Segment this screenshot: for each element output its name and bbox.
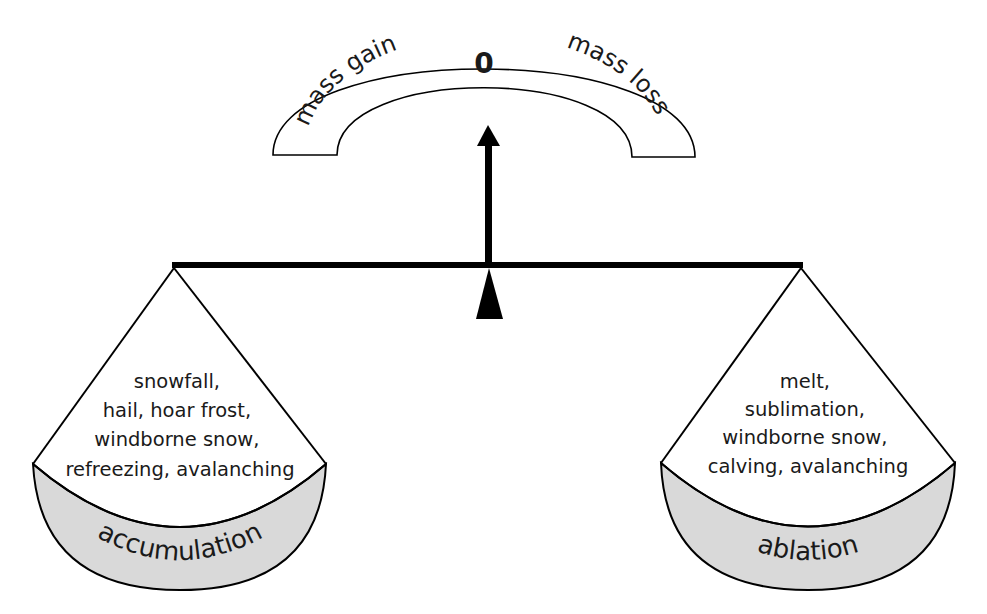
left-pan-items: snowfall, hail, hoar frost, windborne sn…	[65, 370, 294, 481]
gauge-label-zero: 0	[474, 47, 493, 80]
pointer-arrow-icon	[477, 125, 500, 266]
fulcrum-triangle-icon	[476, 268, 503, 319]
right-pan-items: melt, sublimation, windborne snow, calvi…	[708, 370, 909, 478]
right-pan-ablation: melt, sublimation, windborne snow, calvi…	[661, 268, 955, 590]
left-pan-accumulation: snowfall, hail, hoar frost, windborne sn…	[33, 268, 326, 590]
scale-beam	[172, 262, 803, 268]
glacier-mass-balance-scale: mass gain 0 mass loss snowfall, hail, ho…	[0, 0, 987, 614]
